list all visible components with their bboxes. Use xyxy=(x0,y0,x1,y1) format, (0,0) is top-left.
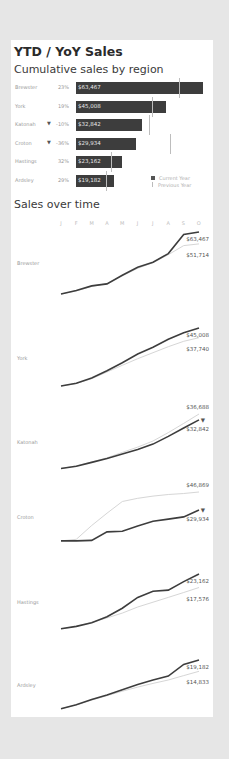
bar-value-label: $45,008 xyxy=(78,103,101,109)
previous-year-reference-line xyxy=(152,97,153,117)
bar-value-label: $19,182 xyxy=(78,177,101,183)
legend: Current Year Previous Year xyxy=(151,174,191,188)
line-plot xyxy=(11,656,213,714)
bar-value-label: $29,934 xyxy=(78,140,101,146)
month-tick-label: J xyxy=(60,220,61,226)
bar-region-label: Ardsley xyxy=(15,177,34,183)
bar-value-label: $23,162 xyxy=(78,158,101,164)
legend-label-current: Current Year xyxy=(159,175,190,181)
line-plot xyxy=(11,228,213,300)
bar-yoy-pct: 29% xyxy=(53,177,69,183)
legend-item-previous[interactable]: Previous Year xyxy=(151,181,191,188)
legend-item-current[interactable]: Current Year xyxy=(151,174,191,181)
bar-region-label: Katonah xyxy=(15,121,36,127)
month-tick-label: M xyxy=(89,220,93,226)
down-arrow-icon: ▼ xyxy=(201,417,205,423)
line-chart-york[interactable]: York$45,008$37,740 xyxy=(11,324,213,392)
bar-row[interactable]: York19%$45,008 xyxy=(11,100,213,114)
month-tick-label: F xyxy=(75,220,78,226)
line-chart-hastings[interactable]: Hastings$23,162$17,576 xyxy=(11,570,213,634)
line-chart-croton[interactable]: Croton$46,869$29,934▼ xyxy=(11,488,213,546)
top-value-label: $46,869 xyxy=(186,482,209,488)
line-plot xyxy=(11,570,213,634)
top-value-label: $63,467 xyxy=(186,236,209,242)
line-section-title: Sales over time xyxy=(14,198,100,211)
bar-region-label: York xyxy=(15,103,25,109)
month-tick-label: O xyxy=(197,220,201,226)
bottom-value-label: $14,833 xyxy=(186,679,209,685)
bottom-value-label: $37,740 xyxy=(186,346,209,352)
bar-section-title: Cumulative sales by region xyxy=(14,63,164,76)
previous-year-reference-line xyxy=(149,115,150,135)
bar-yoy-pct: -36% xyxy=(53,140,69,146)
line-chart-ardsley[interactable]: Ardsley$19,182$14,833 xyxy=(11,656,213,714)
down-arrow-icon: ▼ xyxy=(47,120,51,126)
bar-region-label: Hastings xyxy=(15,158,37,164)
previous-year-reference-line xyxy=(179,78,180,98)
bar-value-label: $63,467 xyxy=(78,84,101,90)
previous-year-reference-line xyxy=(170,134,171,154)
bottom-value-label: $29,934 xyxy=(186,516,209,522)
dashboard-title: YTD / YoY Sales xyxy=(14,44,123,59)
down-arrow-icon: ▼ xyxy=(201,507,205,513)
top-value-label: $45,008 xyxy=(186,332,209,338)
previous-year-reference-line xyxy=(111,152,112,172)
bar-row[interactable]: Katonah▼-10%$32,842 xyxy=(11,118,213,132)
bar-row[interactable]: Hastings32%$23,162 xyxy=(11,155,213,169)
bar-yoy-pct: -10% xyxy=(53,121,69,127)
legend-label-previous: Previous Year xyxy=(158,182,191,188)
line-chart-brewster[interactable]: Brewster$63,467$51,714 xyxy=(11,228,213,300)
line-plot xyxy=(11,324,213,392)
bottom-value-label: $51,714 xyxy=(186,252,209,258)
month-tick-label: A xyxy=(166,220,169,226)
month-tick-label: J xyxy=(137,220,138,226)
down-arrow-icon: ▼ xyxy=(47,139,51,145)
bar-row[interactable]: Croton▼-36%$29,934 xyxy=(11,137,213,151)
bar-yoy-pct: 23% xyxy=(53,84,69,90)
legend-swatch-icon xyxy=(151,176,155,180)
month-axis: JFMAMJJASO xyxy=(61,220,211,228)
bottom-value-label: $32,842 xyxy=(186,426,209,432)
legend-reference-line-icon xyxy=(152,182,153,187)
line-chart-katonah[interactable]: Katonah$36,688$32,842▼ xyxy=(11,410,213,474)
bar-yoy-pct: 19% xyxy=(53,103,69,109)
month-tick-label: J xyxy=(152,220,153,226)
bar-region-label: Brewster xyxy=(15,84,37,90)
bottom-value-label: $17,576 xyxy=(186,596,209,602)
month-tick-label: M xyxy=(120,220,124,226)
bar-value-label: $32,842 xyxy=(78,121,101,127)
bar-region-label: Croton xyxy=(15,140,32,146)
top-value-label: $36,688 xyxy=(186,404,209,410)
month-tick-label: A xyxy=(105,220,108,226)
month-tick-label: S xyxy=(182,220,185,226)
dashboard-card: YTD / YoY Sales Cumulative sales by regi… xyxy=(11,40,213,717)
line-plot xyxy=(11,488,213,546)
previous-year-reference-line xyxy=(106,171,107,191)
bar-yoy-pct: 32% xyxy=(53,158,69,164)
bar-row[interactable]: Brewster23%$63,467 xyxy=(11,81,213,95)
top-value-label: $19,182 xyxy=(186,664,209,670)
top-value-label: $23,162 xyxy=(186,578,209,584)
line-plot xyxy=(11,410,213,474)
